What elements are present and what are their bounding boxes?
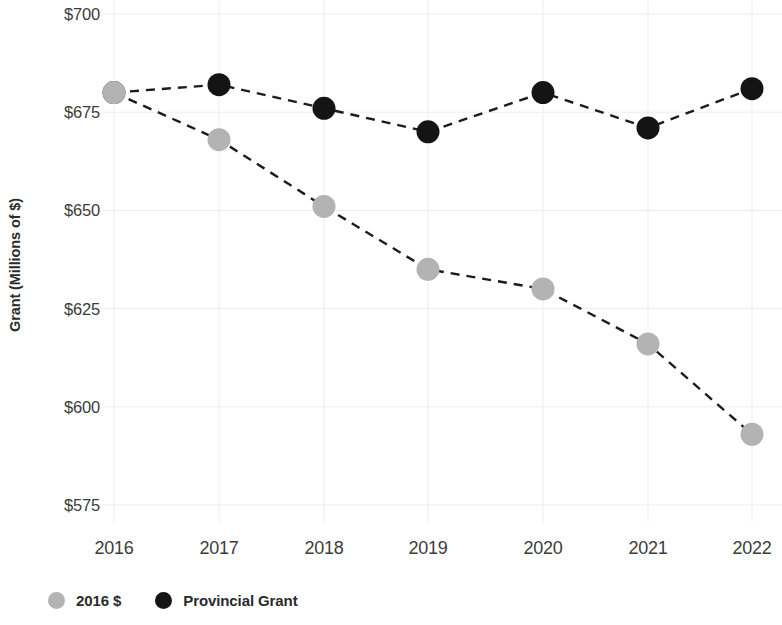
chart-legend: 2016 $Provincial Grant	[48, 592, 298, 609]
legend-marker-icon	[48, 592, 65, 609]
data-point-marker	[417, 258, 440, 281]
data-point-marker	[313, 195, 336, 218]
legend-item[interactable]: 2016 $	[48, 592, 121, 609]
line-chart: Grant (Millions of $) $700$675$650$625$6…	[0, 0, 782, 625]
data-point-marker	[741, 423, 764, 446]
series-markers	[103, 73, 764, 446]
data-point-marker	[532, 81, 555, 104]
legend-item[interactable]: Provincial Grant	[155, 592, 297, 609]
data-point-marker	[103, 81, 126, 104]
legend-label: 2016 $	[76, 592, 121, 609]
data-point-marker	[417, 120, 440, 143]
plot-area	[0, 0, 782, 625]
legend-label: Provincial Grant	[183, 592, 297, 609]
data-point-marker	[637, 116, 660, 139]
grid-lines	[103, 0, 782, 523]
data-point-marker	[741, 77, 764, 100]
legend-marker-icon	[155, 592, 172, 609]
data-point-marker	[313, 97, 336, 120]
data-point-marker	[532, 277, 555, 300]
data-point-marker	[208, 73, 231, 96]
data-point-marker	[637, 332, 660, 355]
data-point-marker	[208, 128, 231, 151]
